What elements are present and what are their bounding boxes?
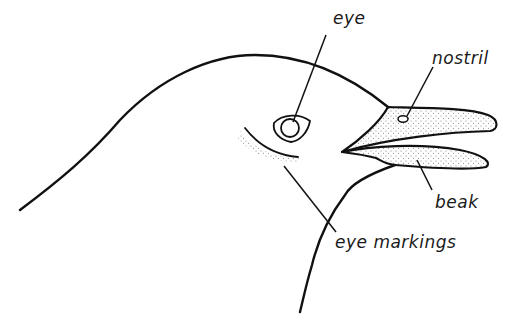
- eye-markings-leader-line: [284, 166, 336, 232]
- label-eye: eye: [333, 8, 365, 28]
- bird-head-diagram: eye nostril beak eye markings: [0, 0, 512, 330]
- label-beak: beak: [435, 192, 479, 212]
- nostril: [398, 116, 408, 122]
- label-nostril: nostril: [432, 48, 489, 68]
- head-outline: [20, 55, 388, 210]
- eye-leader-line: [293, 35, 326, 122]
- eye-markings: [238, 128, 300, 162]
- eye: [274, 116, 310, 142]
- label-eye-markings: eye markings: [335, 232, 456, 252]
- lower-beak: [342, 146, 488, 169]
